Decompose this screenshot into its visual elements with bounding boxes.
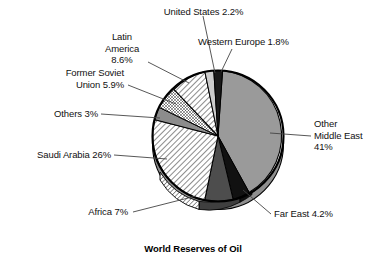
slice-label-saudi-arabia: Saudi Arabia 26% [6,149,111,161]
slice-label-other-middle-east-line2: Middle East [314,130,386,142]
leader-latin-america [148,62,189,83]
slice-label-former-soviet-union-line1: Former Soviet [26,67,124,79]
slice-label-others-text: Others 3% [54,108,98,119]
pie-chart-figure: United States 2.2% Western Europe 1.8% L… [0,0,386,266]
slice-label-latin-america-line3: 8.6% [92,54,152,66]
slice-label-africa: Africa 7% [50,206,128,218]
slice-label-far-east: Far East 4.2% [274,208,333,220]
slice-label-africa-text: Africa 7% [88,206,128,217]
slice-label-other-middle-east: Other Middle East 41% [314,118,386,153]
slice-label-former-soviet-union-line2: Union 5.9% [26,79,124,91]
slice-label-latin-america: Latin America 8.6% [92,31,152,66]
slice-label-western-europe-text: Western Europe 1.8% [198,36,289,47]
slice-label-western-europe: Western Europe 1.8% [198,36,289,48]
slice-label-other-middle-east-line1: Other [314,118,386,130]
leader-others [101,114,160,118]
slice-label-latin-america-line2: America [92,43,152,55]
leader-western-europe [221,49,232,72]
slice-label-others: Others 3% [20,108,98,120]
slice-label-far-east-text: Far East 4.2% [274,208,333,219]
slice-label-other-middle-east-line3: 41% [314,141,386,153]
slice-label-former-soviet-union: Former Soviet Union 5.9% [26,67,124,90]
slice-label-saudi-arabia-text: Saudi Arabia 26% [37,149,111,160]
slice-label-latin-america-line1: Latin [92,31,152,43]
slice-label-united-states-text: United States 2.2% [164,6,244,17]
pie-slices [153,70,284,201]
slice-label-united-states: United States 2.2% [146,6,261,18]
chart-title: World Reserves of Oil [0,243,386,254]
